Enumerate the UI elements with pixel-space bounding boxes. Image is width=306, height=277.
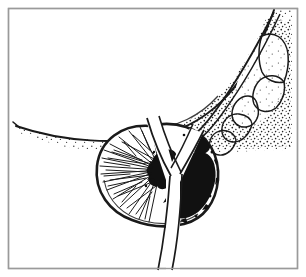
anatomical-illustration bbox=[0, 0, 306, 277]
figure-frame bbox=[0, 0, 306, 277]
